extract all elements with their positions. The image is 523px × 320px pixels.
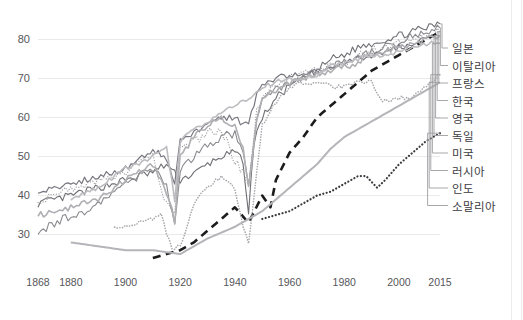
series-line [71, 82, 440, 254]
right-border [511, 0, 512, 320]
series-line [153, 32, 440, 258]
legend-leader-line [440, 24, 448, 48]
line-chart-canvas [0, 0, 523, 320]
legend-label-5[interactable]: 영국 [452, 110, 474, 126]
x-axis-tick-label: 1880 [51, 276, 91, 288]
legend-label-6[interactable]: 독일 [452, 128, 474, 144]
x-axis-tick-label: 1920 [160, 276, 200, 288]
right-border-2 [521, 0, 522, 320]
legend-label-2[interactable]: 이탈리아 [452, 58, 496, 74]
x-axis-tick-label: 1940 [215, 276, 255, 288]
legend-label-1[interactable]: 일본 [452, 40, 474, 56]
x-axis-tick-label: 1960 [270, 276, 310, 288]
x-axis-tick-label: 1980 [324, 276, 364, 288]
chart-root: 3040506070801868188019001920194019601980… [0, 0, 523, 320]
x-axis-tick-label: 2015 [420, 276, 460, 288]
y-axis-tick-label: 50 [6, 150, 30, 162]
legend-label-4[interactable]: 한국 [452, 93, 474, 109]
series-line [38, 35, 440, 193]
legend-label-9[interactable]: 인도 [452, 180, 474, 196]
series-line [262, 133, 440, 219]
legend-label-10[interactable]: 소말리아 [452, 198, 496, 214]
y-axis-tick-label: 70 [6, 72, 30, 84]
legend-leader-line [440, 28, 448, 66]
x-axis-tick-label: 2000 [379, 276, 419, 288]
y-axis-tick-label: 30 [6, 228, 30, 240]
y-axis-tick-label: 40 [6, 189, 30, 201]
y-axis-tick-label: 80 [6, 33, 30, 45]
x-axis-tick-label: 1900 [106, 276, 146, 288]
series-line [115, 75, 440, 250]
y-axis-tick-label: 60 [6, 111, 30, 123]
legend-label-3[interactable]: 프랑스 [452, 75, 485, 91]
legend-label-7[interactable]: 미국 [452, 145, 474, 161]
legend-label-8[interactable]: 러시아 [452, 163, 485, 179]
